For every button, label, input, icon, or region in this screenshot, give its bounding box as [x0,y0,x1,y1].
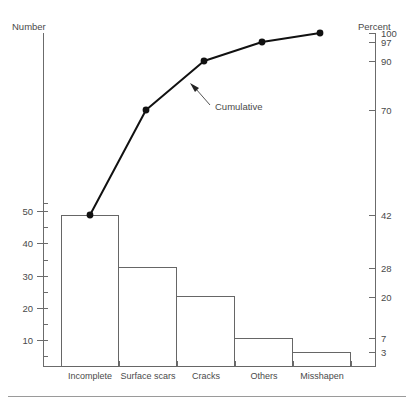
pareto-chart-figure: Number Percent 50 [0,0,414,409]
bar-surface-scars [119,268,177,367]
bar-incomplete [62,216,119,367]
left-axis-title: Number [12,21,46,32]
bar-others [235,339,293,367]
data-point-others [259,39,266,46]
category-label-cracks: Cracks [192,371,221,381]
x-axis-category-labels: Incomplete Surface scars Cracks Others M… [68,371,344,381]
right-tick-label-97: 97 [381,37,392,48]
category-label-incomplete: Incomplete [68,371,112,381]
right-tick-label-20: 20 [381,292,392,303]
left-tick-label-40: 40 [22,238,33,249]
cumulative-data-points [87,30,324,219]
left-axis-minor-ticks [44,204,49,357]
right-tick-label-3: 3 [381,347,386,358]
right-tick-label-90: 90 [381,56,392,67]
category-label-others: Others [250,371,278,381]
cumulative-annotation-label: Cumulative [215,101,263,112]
right-tick-label-28: 28 [381,263,392,274]
right-tick-label-7: 7 [381,333,386,344]
left-tick-label-20: 20 [22,303,33,314]
right-axis-tick-labels: 100 97 90 70 42 28 20 7 3 [381,28,397,358]
data-point-incomplete [87,212,94,219]
right-tick-label-70: 70 [381,105,392,116]
cumulative-annotation: Cumulative [190,83,263,112]
left-tick-label-10: 10 [22,335,33,346]
category-label-misshapen: Misshapen [300,371,344,381]
bar-misshapen [293,353,351,367]
bar-cracks [177,297,235,367]
bar-series [62,216,351,367]
footer-divider [8,396,406,397]
left-axis-tick-labels: 50 40 30 20 10 [22,206,33,346]
annotation-leader-line [196,89,210,105]
data-point-cracks [201,58,208,65]
left-tick-label-50: 50 [22,206,33,217]
data-point-surface-scars [143,107,150,114]
chart-canvas: Number Percent 50 [0,0,414,409]
x-axis-category-ticks [62,361,352,367]
left-tick-label-30: 30 [22,271,33,282]
right-axis-ticks [369,34,376,353]
category-label-surface-scars: Surface scars [120,371,176,381]
data-point-misshapen [317,30,324,37]
left-axis-major-ticks [37,212,44,341]
right-tick-label-42: 42 [381,210,392,221]
